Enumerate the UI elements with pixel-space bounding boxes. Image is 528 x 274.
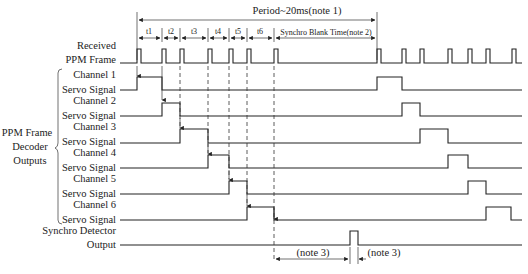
label-ppm-frame: PPM Frame bbox=[66, 54, 117, 65]
timing-diagram: Period~20ms(note 1) t1 t2 t3 t4 t5 t6 Sy… bbox=[0, 0, 528, 274]
interval-t4: t4 bbox=[215, 27, 221, 36]
channel-6-waveform bbox=[120, 207, 522, 220]
label-servo-2: Servo Signal bbox=[62, 110, 116, 121]
interval-t3: t3 bbox=[191, 27, 197, 36]
interval-t1: t1 bbox=[146, 27, 152, 36]
channel-5-waveform bbox=[120, 181, 522, 194]
label-channel-2: Channel 2 bbox=[73, 95, 116, 106]
synchro-detector-waveform bbox=[120, 231, 522, 245]
label-servo-3: Servo Signal bbox=[62, 136, 116, 147]
label-channel-3: Channel 3 bbox=[73, 121, 116, 132]
label-servo-6: Servo Signal bbox=[62, 214, 116, 225]
blank-time-label: Synchro Blank Time(note 2) bbox=[280, 28, 372, 37]
note3-label-a: (note 3) bbox=[297, 247, 330, 259]
interval-t6: t6 bbox=[257, 27, 263, 36]
group-label-line3: Outputs bbox=[13, 155, 46, 166]
label-output: Output bbox=[87, 239, 116, 250]
label-synchro-detector: Synchro Detector bbox=[42, 225, 116, 236]
note3-dimensions: (note 3) (note 3) bbox=[276, 247, 401, 264]
interval-dimensions: t1 t2 t3 t4 t5 t6 Synchro Blank Time(not… bbox=[139, 27, 375, 42]
channel-3-waveform bbox=[120, 129, 522, 143]
label-servo-4: Servo Signal bbox=[62, 162, 116, 173]
ppm-frame-waveform bbox=[120, 49, 522, 63]
signal-labels: Received PPM Frame Channel 1 Servo Signa… bbox=[42, 40, 117, 250]
label-channel-5: Channel 5 bbox=[73, 173, 116, 184]
timing-guides bbox=[137, 66, 274, 262]
group-brace bbox=[55, 69, 62, 224]
interval-t5: t5 bbox=[235, 27, 241, 36]
label-channel-6: Channel 6 bbox=[73, 199, 116, 210]
label-received: Received bbox=[77, 40, 117, 51]
label-channel-1: Channel 1 bbox=[73, 69, 116, 80]
period-label: Period~20ms(note 1) bbox=[253, 5, 342, 17]
label-channel-4: Channel 4 bbox=[73, 147, 117, 158]
group-label-line1: PPM Frame bbox=[2, 127, 53, 138]
interval-t2: t2 bbox=[168, 27, 174, 36]
note3-label-b: (note 3) bbox=[368, 247, 401, 259]
group-label-line2: Decoder bbox=[12, 141, 48, 152]
channel-4-waveform bbox=[120, 155, 522, 168]
label-servo-5: Servo Signal bbox=[62, 188, 116, 199]
label-servo-1: Servo Signal bbox=[62, 84, 116, 95]
